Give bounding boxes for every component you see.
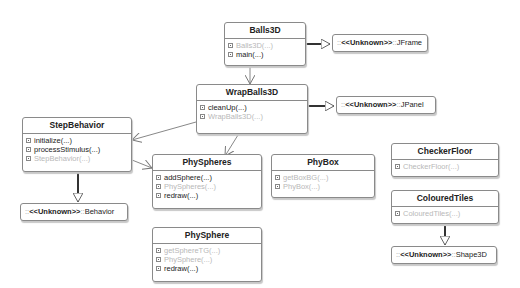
operation[interactable]: main(...): [228, 50, 302, 59]
external-class-shape3d[interactable]: ::<<Unknown>>::Shape3D: [391, 246, 497, 264]
edge-wrapballs3d-stepbehavior: [132, 122, 196, 140]
operation-icon: [26, 156, 31, 161]
operation-icon: [156, 248, 161, 253]
edge-stepbehavior-physpheres: [132, 160, 152, 168]
class-name: Balls3D: [225, 23, 305, 39]
operation[interactable]: cleanUp(...): [200, 103, 304, 112]
external-class-behavior[interactable]: ::<<Unknown>>::Behavior: [20, 203, 128, 221]
external-class-jframe[interactable]: ::<<Unknown>>::JFrame: [332, 34, 428, 52]
operation-icon: [228, 43, 233, 48]
operation-icon: [200, 105, 205, 110]
operation-icon: [200, 114, 205, 119]
class-name: ColouredTiles: [392, 191, 498, 207]
operation-icon: [156, 193, 161, 198]
operation[interactable]: PhyBox(...): [275, 182, 371, 191]
operation-icon: [156, 257, 161, 262]
class-name: PhySpheres: [153, 155, 261, 171]
operation[interactable]: ColouredTiles(...): [395, 209, 495, 218]
class-stepbehavior[interactable]: StepBehavior initialize(...) processStim…: [22, 117, 132, 172]
operation-icon: [26, 138, 31, 143]
operation-icon: [156, 266, 161, 271]
operation-icon: [275, 184, 280, 189]
operation[interactable]: initialize(...): [26, 136, 128, 145]
external-class-jpanel[interactable]: ::<<Unknown>>::JPanel: [336, 96, 436, 114]
operation[interactable]: processStimulus(...): [26, 145, 128, 154]
operation[interactable]: PhySphere(...): [156, 255, 258, 264]
class-phybox[interactable]: PhyBox getBoxBG(...) PhyBox(...): [271, 154, 375, 198]
operation[interactable]: WrapBalls3D(...): [200, 112, 304, 121]
operation-icon: [26, 147, 31, 152]
class-name: CheckerFloor: [392, 144, 498, 160]
operation[interactable]: addSphere(...): [156, 173, 258, 182]
class-name: WrapBalls3D: [197, 85, 307, 101]
operation-icon: [228, 52, 233, 57]
operation[interactable]: PhySpheres(...): [156, 182, 258, 191]
operation-icon: [275, 175, 280, 180]
class-colouredtiles[interactable]: ColouredTiles ColouredTiles(...): [391, 190, 499, 224]
operation[interactable]: redraw(...): [156, 191, 258, 200]
class-wrapballs3d[interactable]: WrapBalls3D cleanUp(...) WrapBalls3D(...…: [196, 84, 308, 134]
edge-wrapballs3d-physpheres: [225, 135, 238, 156]
operation-icon: [395, 211, 400, 216]
class-checkerfloor[interactable]: CheckerFloor CheckerFloor(...): [391, 143, 499, 177]
class-physpheres[interactable]: PhySpheres addSphere(...) PhySpheres(...…: [152, 154, 262, 209]
class-physphere[interactable]: PhySphere getSphereTG(...) PhySphere(...…: [152, 227, 262, 282]
class-name: PhySphere: [153, 228, 261, 244]
operation-icon: [156, 175, 161, 180]
class-balls3d[interactable]: Balls3D Balls3D(...) main(...): [224, 22, 306, 66]
operation[interactable]: getSphereTG(...): [156, 246, 258, 255]
class-name: PhyBox: [272, 155, 374, 171]
operation-icon: [395, 164, 400, 169]
operation[interactable]: redraw(...): [156, 264, 258, 273]
operation[interactable]: Balls3D(...): [228, 41, 302, 50]
operation[interactable]: StepBehavior(...): [26, 154, 128, 163]
operation-icon: [156, 184, 161, 189]
class-name: StepBehavior: [23, 118, 131, 134]
operation[interactable]: CheckerFloor(...): [395, 162, 495, 171]
operation[interactable]: getBoxBG(...): [275, 173, 371, 182]
